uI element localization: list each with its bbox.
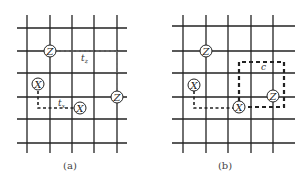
svg-text:Z: Z (202, 46, 211, 57)
panel-a-x-node-1: X (32, 78, 44, 90)
panel-a-tx-path (38, 91, 74, 108)
panel-b-z-node-2: Z (267, 90, 279, 102)
svg-text:X: X (75, 103, 84, 114)
panel-a-x-node-2: X (74, 102, 86, 114)
svg-text:X: X (234, 102, 243, 113)
figure-canvas: tz tx Z Z X X (a) c Z Z X X (0, 0, 301, 184)
panel-b-loop-label: c (261, 62, 266, 72)
panel-a-caption: (a) (63, 160, 77, 171)
svg-text:Z: Z (269, 91, 278, 102)
panel-b-x-node-1: X (188, 79, 200, 91)
panel-a-tx-label: tx (58, 98, 66, 109)
svg-text:X: X (189, 80, 198, 91)
panel-a-tz-label: tz (81, 53, 89, 64)
svg-text:Z: Z (113, 92, 122, 103)
panel-b-z-node-1: Z (200, 45, 212, 57)
svg-text:Z: Z (46, 46, 55, 57)
svg-text:X: X (33, 79, 42, 90)
panel-b-caption: (b) (218, 160, 232, 171)
panel-b-x-path (194, 91, 233, 108)
panel-b-x-node-2: X (233, 101, 245, 113)
panel-a-z-node-2: Z (111, 91, 123, 103)
panel-a-z-node-1: Z (44, 45, 56, 57)
